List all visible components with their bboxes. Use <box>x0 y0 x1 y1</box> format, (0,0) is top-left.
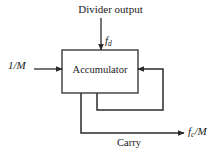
carry-label: Carry <box>117 138 141 149</box>
fd-signal-label: fd <box>105 35 112 48</box>
accumulator-label: Accumulator <box>62 65 138 76</box>
fd-subscript: d <box>108 39 112 48</box>
block-diagram-figure: Divider output Accumulator 1/M fd Carry … <box>0 0 221 159</box>
fc-suffix: /M <box>194 125 206 137</box>
fc-over-m-signal-label: fc/M <box>188 126 207 139</box>
divider-output-label: Divider output <box>0 4 221 15</box>
one-over-m-label: 1/M <box>8 60 26 71</box>
one-over-m-text: 1/M <box>8 59 26 71</box>
